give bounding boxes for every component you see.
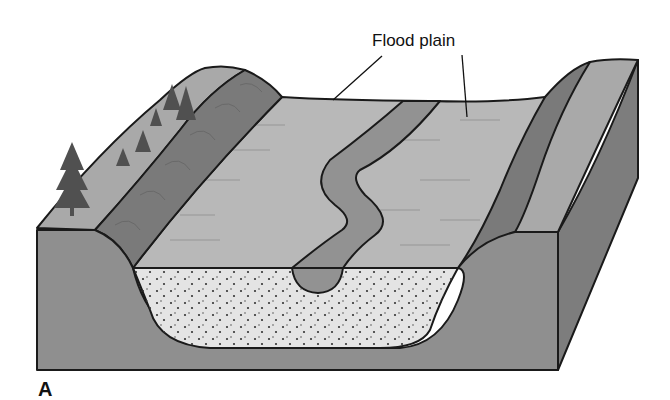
panel-label: A: [38, 378, 52, 400]
flood-plain-leader-left: [333, 56, 382, 100]
flood-plain-label: Flood plain: [372, 31, 455, 51]
